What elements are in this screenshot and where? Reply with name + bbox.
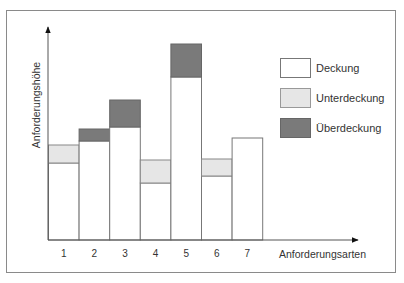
legend-swatch-unterdeckung [281,89,311,108]
bar-segment-deckung [140,183,171,240]
x-tick-label: 5 [183,248,189,259]
bar-segment-deckung [232,138,263,240]
bar-segment-deckung [110,127,141,240]
legend: Deckung Unterdeckung Überdeckung [281,59,385,138]
bar-segment-ueberdeckung [110,100,141,127]
x-tick-labels: 1234567 [61,248,251,259]
x-tick-label: 7 [245,248,251,259]
x-tick-label: 4 [153,248,159,259]
x-tick-label: 3 [122,248,128,259]
bars-group [49,44,263,240]
bar-segment-deckung [202,176,233,240]
x-tick-label: 6 [214,248,220,259]
bar-segment-deckung [171,77,202,240]
bar-segment-unterdeckung [140,160,171,183]
bar-segment-ueberdeckung [171,44,202,77]
legend-label-unterdeckung: Unterdeckung [316,92,385,104]
legend-label-deckung: Deckung [316,62,359,74]
bar-segment-ueberdeckung [79,129,110,141]
bar-segment-unterdeckung [202,159,233,176]
x-tick-label: 1 [61,248,67,259]
legend-label-ueberdeckung: Überdeckung [316,122,381,134]
coverage-bar-diagram: 1234567 Anforderungshöhe Anforderungsart… [0,0,404,283]
y-axis-label: Anforderungshöhe [30,62,42,149]
x-axis-label: Anforderungsarten [279,248,366,260]
bar-segment-deckung [79,141,110,240]
legend-swatch-deckung [281,59,311,78]
bar-segment-unterdeckung [49,145,80,163]
legend-swatch-ueberdeckung [281,119,311,138]
x-tick-label: 2 [92,248,98,259]
bar-segment-deckung [49,163,80,240]
